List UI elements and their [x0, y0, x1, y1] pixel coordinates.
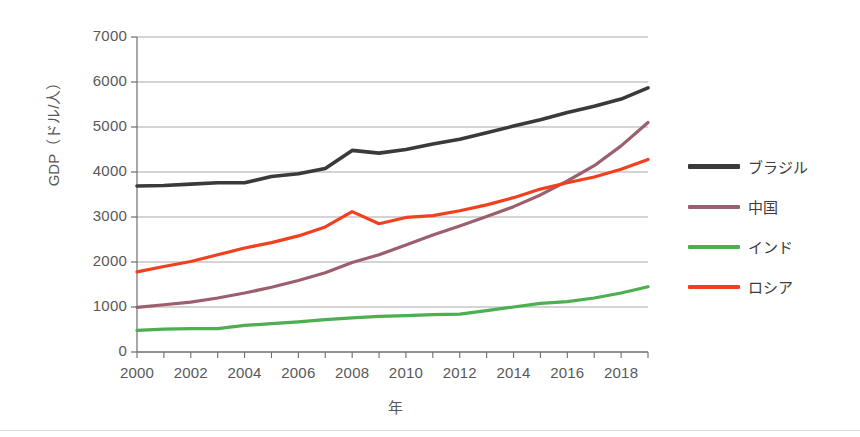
legend-item[interactable]: ロシア [688, 276, 793, 297]
page-bottom-divider [0, 430, 860, 431]
legend-color-swatch [688, 245, 740, 249]
chart-figure: 01000200030004000500060007000 2000200220… [0, 0, 860, 437]
y-axis-tick-label: 2000 [41, 252, 127, 269]
legend-color-swatch [688, 205, 740, 209]
x-axis-tick-label: 2008 [322, 364, 382, 381]
legend-color-swatch [688, 164, 740, 169]
legend-color-swatch [688, 285, 740, 289]
x-axis-tick-label: 2016 [537, 364, 597, 381]
legend-item[interactable]: インド [688, 236, 793, 257]
legend-item[interactable]: 中国 [688, 196, 778, 217]
y-axis-label: GDP（ドル/人） [42, 51, 63, 211]
y-axis-tick-label: 7000 [41, 27, 127, 44]
legend-item-label: インド [748, 236, 793, 257]
chart-axis-lines [137, 37, 648, 352]
x-axis-tick-label: 2006 [268, 364, 328, 381]
x-axis-tick-label: 2000 [107, 364, 167, 381]
x-axis-tick-label: 2018 [591, 364, 651, 381]
series-line-ロシア [137, 159, 648, 272]
chart-axis-ticks [131, 37, 648, 358]
x-axis-tick-label: 2004 [215, 364, 275, 381]
legend-item-label: 中国 [748, 196, 778, 217]
y-axis-tick-label: 1000 [41, 297, 127, 314]
legend-item-label: ブラジル [748, 156, 808, 177]
chart-series-lines [137, 88, 648, 331]
series-line-ブラジル [137, 88, 648, 186]
x-axis-tick-label: 2002 [161, 364, 221, 381]
legend-item-label: ロシア [748, 276, 793, 297]
legend-item[interactable]: ブラジル [688, 156, 808, 177]
y-axis-tick-label: 0 [41, 342, 127, 359]
x-axis-tick-label: 2012 [430, 364, 490, 381]
x-axis-tick-label: 2010 [376, 364, 436, 381]
x-axis-tick-label: 2014 [484, 364, 544, 381]
x-axis-label: 年 [0, 396, 790, 417]
chart-gridlines [137, 37, 648, 352]
series-line-インド [137, 287, 648, 331]
